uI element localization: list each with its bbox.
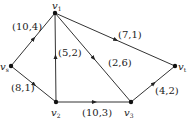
node-label-vs: vs [0,61,9,73]
arrow-icon [92,56,94,58]
edge-label: (2,6) [108,57,132,68]
arrow-icon [32,39,34,41]
edge-label: (10,4) [12,21,42,32]
edge-label: (4,2) [155,85,179,96]
node-label-v3: v3 [124,107,134,119]
network-graph: (10,4)(8,1)(5,2)(2,6)(7,1)(10,3)(4,2)v1v… [0,0,188,123]
node-v3 [129,100,133,104]
node-label-v1: v1 [52,0,61,12]
edge-label: (8,1) [11,82,35,93]
node-vs [9,64,13,68]
edge-label: (7,1) [118,29,142,40]
edge-label: (5,2) [58,47,82,58]
node-label-vt: vt [178,61,187,73]
edge-label: (10,3) [82,107,112,118]
node-vt [173,64,177,68]
node-v1 [53,11,57,15]
arrow-icon [113,39,116,40]
node-v2 [54,100,58,104]
node-label-v2: v2 [51,107,61,119]
labels-layer: (10,4)(8,1)(5,2)(2,6)(7,1)(10,3)(4,2)v1v… [0,0,187,119]
arrow-icon [151,83,153,85]
